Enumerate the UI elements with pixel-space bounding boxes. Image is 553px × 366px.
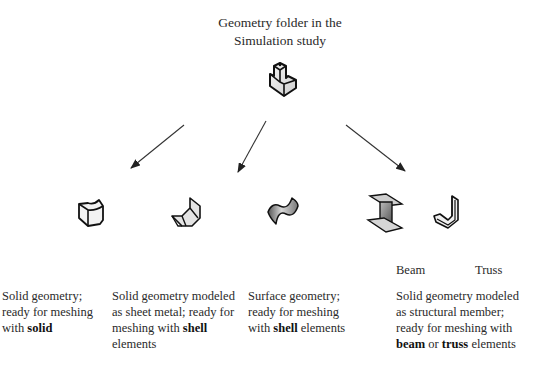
arrow-to-structural [346,125,405,171]
arrow-to-sheet-metal [238,121,266,172]
beam-icon [366,192,406,234]
solid-body-icon [76,196,106,230]
caption-sheet-metal: Solid geometry modeled as sheet metal; r… [112,288,235,352]
truss-icon [432,194,464,230]
caption-solid: Solid geometry; ready for meshing with s… [2,288,93,336]
caption-structural: Solid geometry modeled as structural mem… [396,288,519,352]
arrow-to-solid [131,125,184,168]
sheet-metal-icon [170,196,204,230]
beam-label: Beam [396,262,425,278]
truss-label: Truss [475,262,502,278]
caption-surface: Surface geometry; ready for meshing with… [248,288,345,336]
surface-body-icon [266,194,300,230]
